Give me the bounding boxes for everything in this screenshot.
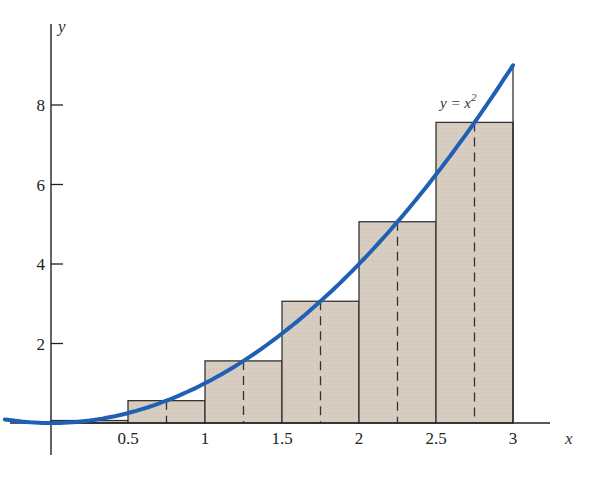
y-tick-label: 4: [37, 255, 46, 274]
x-tick-label: 0.5: [117, 429, 138, 448]
x-axis-label: x: [564, 429, 573, 448]
x-tick-label: 2.5: [425, 429, 446, 448]
x-tick-label: 1.5: [271, 429, 292, 448]
x-tick-label: 3: [509, 429, 518, 448]
y-tick-label: 2: [37, 335, 46, 354]
curve-label-exponent: 2: [471, 91, 477, 103]
x-tick-label: 1: [201, 429, 210, 448]
curve-label: y = x2: [438, 91, 477, 111]
curve-label-text: y = x: [438, 95, 471, 111]
y-tick-label: 6: [37, 176, 46, 195]
y-tick-label: 8: [37, 96, 46, 115]
riemann-sum-chart: 24680.511.522.53 x y y = x2: [0, 0, 593, 480]
y-axis-label: y: [56, 17, 66, 36]
x-tick-label: 2: [355, 429, 364, 448]
